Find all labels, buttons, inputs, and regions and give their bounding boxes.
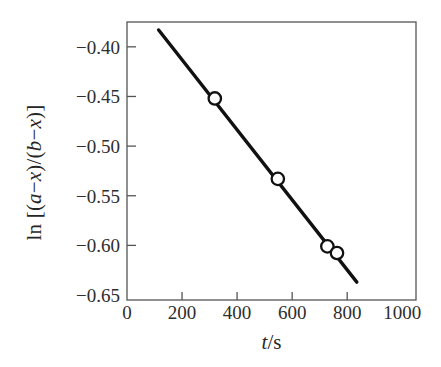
- data-point-3: [331, 247, 343, 259]
- plot-frame: [127, 22, 416, 300]
- plot-area: [0, 0, 441, 367]
- data-point-1: [272, 173, 284, 185]
- chart-figure: ln [(a−x)/(b−x)] −0.40 −0.45 −0.50 −0.55…: [0, 0, 441, 367]
- data-point-0: [209, 92, 221, 104]
